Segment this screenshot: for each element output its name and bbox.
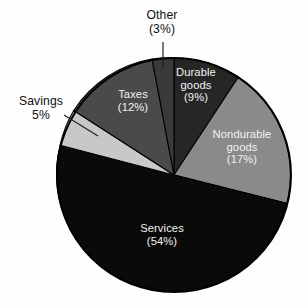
pie-chart-svg <box>0 0 308 308</box>
pie-chart: Durable goods (9%) Nondurable goods (17%… <box>0 0 308 308</box>
